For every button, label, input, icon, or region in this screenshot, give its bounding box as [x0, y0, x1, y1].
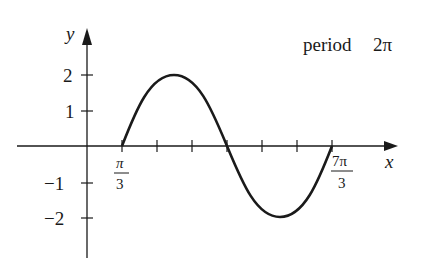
svg-text:3: 3	[338, 175, 346, 191]
x-tick-label-7pi-over-3: 7π 3	[331, 153, 353, 191]
y-axis-arrow-icon	[82, 28, 92, 45]
svg-text:3: 3	[116, 176, 124, 192]
y-tick-label-2: 2	[63, 65, 73, 86]
x-axis-label: x	[384, 151, 394, 172]
svg-text:7π: 7π	[332, 153, 348, 169]
svg-text:π: π	[116, 155, 124, 171]
period-annotation: period 2π	[303, 34, 393, 55]
svg-text:period: period	[303, 34, 352, 55]
x-axis-arrow-icon	[384, 141, 398, 151]
x-tick-label-pi-over-3: π 3	[114, 155, 129, 192]
y-tick-label-1: 1	[65, 101, 75, 122]
y-tick-label-neg2: −2	[44, 208, 64, 229]
y-axis-label: y	[64, 23, 75, 44]
y-tick-label-neg1: −1	[44, 173, 64, 194]
sine-graph: y x 2 1 −1 −2 π 3 7π 3 period 2π	[0, 0, 422, 263]
svg-text:2π: 2π	[373, 34, 393, 55]
